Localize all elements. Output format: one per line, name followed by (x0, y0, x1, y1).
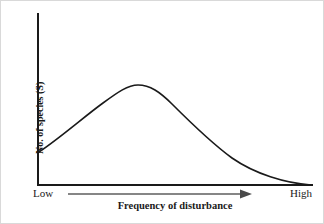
x-axis-tick-low: Low (33, 188, 53, 199)
species-richness-curve (39, 85, 311, 185)
x-axis-title: Frequency of disturbance (38, 201, 312, 212)
chart-figure: No. of species (S) Low High Frequency of… (0, 0, 324, 224)
y-axis-title: No. of species (S) (33, 34, 47, 154)
x-axis-tick-high: High (290, 188, 312, 199)
x-direction-arrow-head (240, 190, 252, 199)
